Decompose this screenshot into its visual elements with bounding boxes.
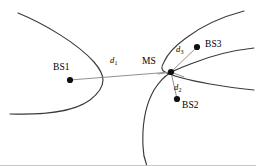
distance-label-d2: d2 [174,83,181,92]
bs2-dot [174,96,180,102]
d2-subscript: 2 [178,87,181,93]
distance-label-d3: d3 [176,45,183,54]
distance-line-d1 [70,72,171,80]
diagram-svg [0,0,256,166]
bs3-label: BS3 [205,40,222,50]
distance-line-d3 [171,47,197,72]
distance-label-d1: d1 [110,56,117,65]
d3-subscript: 3 [180,49,183,55]
bs3-dot [194,44,200,50]
bs1-dot [67,77,73,83]
bs1-label: BS1 [53,63,70,73]
ms-label: MS [142,57,156,67]
d1-subscript: 1 [114,60,117,66]
ms-node-marker [168,69,174,75]
bs2-label: BS2 [182,101,199,111]
figure-canvas: BS1 BS2 BS3 MS d1 d2 d3 [0,0,256,166]
